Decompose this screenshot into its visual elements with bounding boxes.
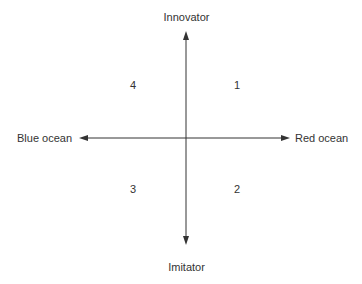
quadrant-number-3: 3 xyxy=(127,183,139,195)
axis-label-innovator: Innovator xyxy=(0,11,362,23)
arrow-left-icon xyxy=(79,135,88,141)
arrow-down-icon xyxy=(183,236,189,245)
quadrant-diagram: Innovator Imitator Blue ocean Red ocean … xyxy=(0,0,362,284)
quadrant-number-4: 4 xyxy=(127,79,139,91)
axis-label-imitator: Imitator xyxy=(0,261,362,273)
axis-label-red-ocean: Red ocean xyxy=(295,132,348,144)
quadrant-number-1: 1 xyxy=(231,79,243,91)
axis-label-blue-ocean: Blue ocean xyxy=(17,132,72,144)
arrow-right-icon xyxy=(281,135,290,141)
quadrant-number-2: 2 xyxy=(231,183,243,195)
arrow-up-icon xyxy=(183,31,189,40)
